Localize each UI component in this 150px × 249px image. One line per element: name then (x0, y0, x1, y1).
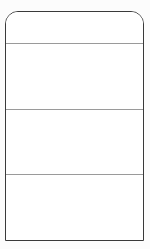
canvas (0, 0, 150, 249)
form-panel-section-2[interactable] (6, 109, 143, 175)
form-panel-section-3-text (12, 180, 137, 235)
form-panel-section-3[interactable] (6, 174, 143, 240)
form-card[interactable] (5, 11, 144, 241)
form-panel-section-1[interactable] (6, 43, 143, 109)
form-panel-header[interactable] (6, 12, 143, 43)
form-panel-section-2-text (12, 115, 137, 170)
form-panel-section-1-text (12, 49, 137, 104)
form-panel-header-text (12, 17, 137, 38)
